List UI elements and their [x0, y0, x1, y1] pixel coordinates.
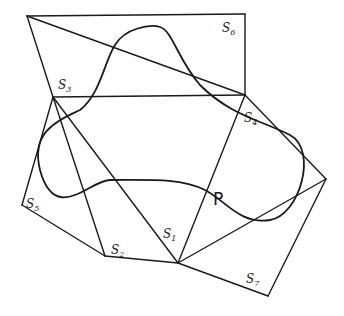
- edge-F-G: [105, 256, 178, 263]
- vertex-labels: S6S3S4S5S2S1S7: [26, 21, 260, 288]
- edge-C-G: [178, 95, 245, 263]
- label-p: P: [213, 189, 223, 209]
- label-s3: S3: [58, 78, 71, 94]
- label-s2: S2: [111, 243, 124, 259]
- polygon-diagram: S6S3S4S5S2S1S7 P: [0, 0, 344, 316]
- edge-D-F: [53, 97, 105, 256]
- edge-G-I: [178, 179, 326, 263]
- closed-curve-p: [38, 26, 304, 221]
- edge-D-C: [53, 95, 245, 97]
- edge-A-D: [27, 16, 53, 97]
- polygon-edges: [22, 14, 326, 296]
- label-s1: S1: [163, 227, 176, 243]
- label-s7: S7: [246, 272, 260, 288]
- edge-A-B: [27, 14, 245, 16]
- edge-C-I: [245, 95, 326, 179]
- label-s5: S5: [26, 197, 39, 213]
- label-s6: S6: [222, 21, 235, 37]
- label-s4: S4: [244, 111, 257, 127]
